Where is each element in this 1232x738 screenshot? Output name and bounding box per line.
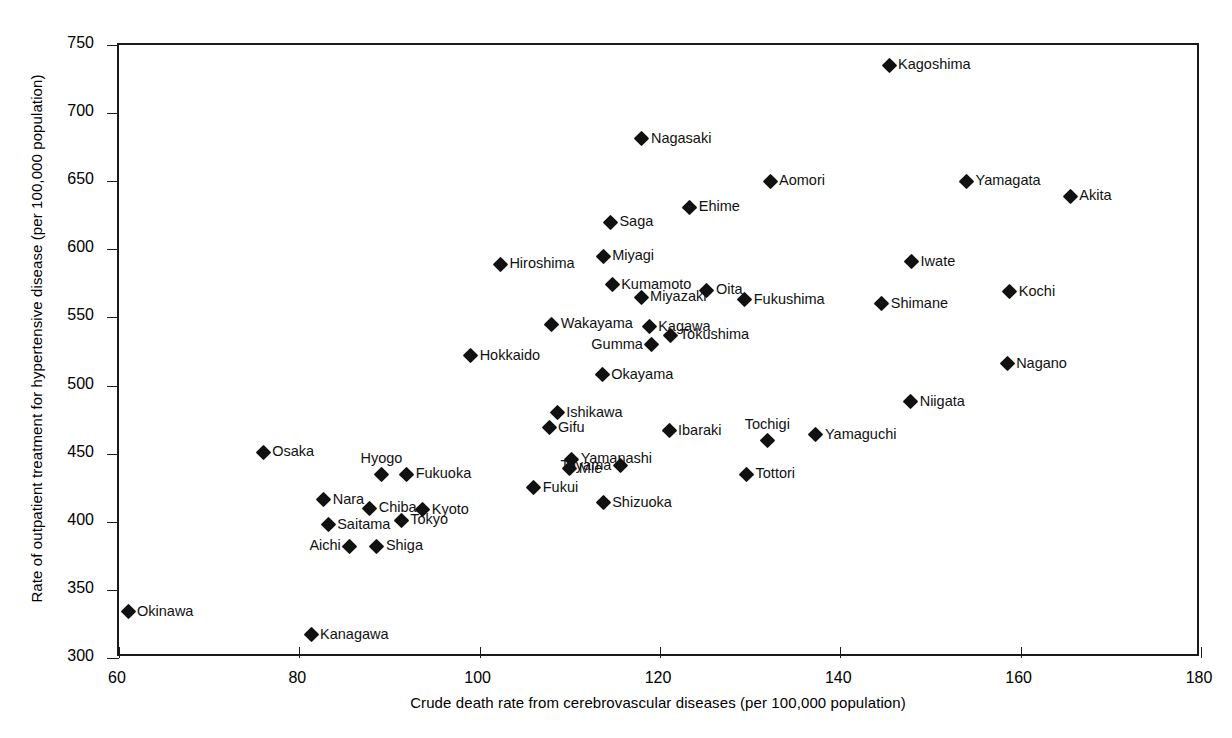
data-point-label: Ehime (699, 199, 740, 214)
plot-area: KagoshimaNagasakiAomoriYamagataAkitaEhim… (117, 43, 1199, 656)
data-point-label: Yamaguchi (825, 427, 896, 442)
y-tick-label: 550 (42, 307, 94, 323)
data-point-label: Gumma (591, 337, 643, 352)
diamond-marker-icon (808, 427, 824, 443)
data-point-label: Shiga (386, 538, 423, 553)
diamond-marker-icon (959, 173, 975, 189)
y-tick-650 (107, 181, 119, 182)
y-tick-450 (107, 454, 119, 455)
diamond-marker-icon (320, 517, 336, 533)
data-point-label: Hyogo (360, 451, 402, 466)
scatter-plot-figure: Rate of outpatient treatment for hyperte… (0, 0, 1232, 738)
data-point-label: Kanagawa (320, 627, 389, 642)
data-point-label: Shimane (891, 296, 948, 311)
data-point-label: Tottori (756, 466, 796, 481)
x-tick-label: 160 (989, 670, 1049, 686)
y-tick-label: 650 (42, 171, 94, 187)
data-point-label: Niigata (920, 394, 965, 409)
data-point-label: Aomori (779, 173, 825, 188)
data-point-label: Kochi (1019, 284, 1055, 299)
data-point-label: Saga (619, 214, 653, 229)
x-tick-120 (660, 647, 661, 658)
diamond-marker-icon (661, 423, 677, 439)
data-point-label: Osaka (272, 444, 314, 459)
data-point-label: Miyagi (612, 248, 654, 263)
data-point-label: Saitama (337, 517, 390, 532)
y-tick-label: 400 (42, 512, 94, 528)
diamond-marker-icon (874, 296, 890, 312)
data-point-label: Nara (333, 492, 364, 507)
y-tick-label: 450 (42, 444, 94, 460)
diamond-marker-icon (120, 604, 136, 620)
diamond-marker-icon (603, 214, 619, 230)
x-axis-title: Crude death rate from cerebrovascular di… (117, 694, 1199, 711)
diamond-marker-icon (544, 316, 560, 332)
diamond-marker-icon (644, 337, 660, 353)
x-tick-140 (840, 647, 841, 658)
diamond-marker-icon (362, 500, 378, 516)
y-tick-label: 300 (42, 648, 94, 664)
diamond-marker-icon (374, 466, 390, 482)
data-point-label: Okayama (611, 367, 673, 382)
diamond-marker-icon (316, 492, 332, 508)
diamond-marker-icon (739, 466, 755, 482)
data-point-label: Tokushima (680, 327, 749, 342)
data-point-label: Hiroshima (509, 256, 574, 271)
data-point-label: Fukui (543, 480, 578, 495)
data-point-label: Miyazaki (650, 289, 706, 304)
data-point-label: Ibaraki (678, 423, 722, 438)
diamond-marker-icon (904, 254, 920, 270)
diamond-marker-icon (255, 445, 271, 461)
diamond-marker-icon (1062, 188, 1078, 204)
data-point-label: Iwate (921, 254, 956, 269)
y-tick-750 (107, 45, 119, 46)
data-point-label: Kagoshima (898, 57, 971, 72)
data-point-label: Ishikawa (566, 405, 622, 420)
diamond-marker-icon (303, 627, 319, 643)
x-tick-80 (299, 647, 300, 658)
diamond-marker-icon (881, 58, 897, 74)
y-tick-350 (107, 590, 119, 591)
diamond-marker-icon (634, 131, 650, 147)
diamond-marker-icon (342, 539, 358, 555)
data-point-label: Tochigi (745, 417, 790, 432)
y-tick-label: 750 (42, 35, 94, 51)
diamond-marker-icon (493, 257, 509, 273)
diamond-marker-icon (604, 277, 620, 293)
x-tick-160 (1021, 647, 1022, 658)
diamond-marker-icon (541, 420, 557, 436)
data-point-label: Nagano (1016, 356, 1067, 371)
diamond-marker-icon (760, 432, 776, 448)
x-tick-60 (119, 647, 120, 658)
diamond-marker-icon (595, 248, 611, 264)
diamond-marker-icon (369, 539, 385, 555)
data-point-label: Nagasaki (651, 131, 711, 146)
data-point-label: Akita (1079, 188, 1111, 203)
diamond-marker-icon (399, 466, 415, 482)
data-point-label: Gifu (558, 420, 585, 435)
diamond-marker-icon (526, 480, 542, 496)
x-tick-label: 60 (87, 670, 147, 686)
y-tick-400 (107, 522, 119, 523)
y-tick-label: 600 (42, 239, 94, 255)
diamond-marker-icon (903, 394, 919, 410)
x-tick-100 (480, 647, 481, 658)
data-point-label: Hokkaido (480, 348, 540, 363)
x-tick-label: 140 (808, 670, 868, 686)
x-tick-label: 180 (1169, 670, 1229, 686)
diamond-marker-icon (999, 356, 1015, 372)
diamond-marker-icon (463, 348, 479, 364)
y-tick-300 (107, 658, 119, 659)
data-point-label: Fukuoka (416, 466, 472, 481)
data-point-label: Shizuoka (612, 495, 672, 510)
diamond-marker-icon (1002, 284, 1018, 300)
data-point-label: Aichi (309, 538, 340, 553)
x-tick-label: 100 (448, 670, 508, 686)
y-tick-700 (107, 113, 119, 114)
data-point-label: Tokyo (410, 512, 448, 527)
x-tick-180 (1201, 647, 1202, 658)
y-tick-600 (107, 249, 119, 250)
x-tick-label: 80 (267, 670, 327, 686)
data-point-label: Fukushima (754, 292, 825, 307)
y-tick-550 (107, 317, 119, 318)
